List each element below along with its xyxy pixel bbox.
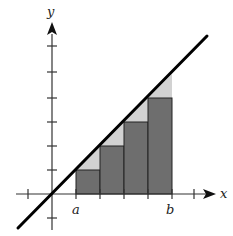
rectangle-1 xyxy=(76,170,100,194)
rectangle-2 xyxy=(100,146,124,194)
y-axis-arrow-icon xyxy=(47,22,57,35)
x-axis-label: x xyxy=(220,186,228,201)
riemann-sum-diagram: y x a b xyxy=(0,0,233,236)
b-label: b xyxy=(166,202,174,217)
riemann-rectangles xyxy=(76,98,172,194)
y-axis-label: y xyxy=(46,4,55,19)
function-line xyxy=(18,36,207,228)
a-label: a xyxy=(72,202,80,217)
rectangle-4 xyxy=(148,98,172,194)
y-axis xyxy=(47,34,57,230)
rectangle-3 xyxy=(124,122,148,194)
